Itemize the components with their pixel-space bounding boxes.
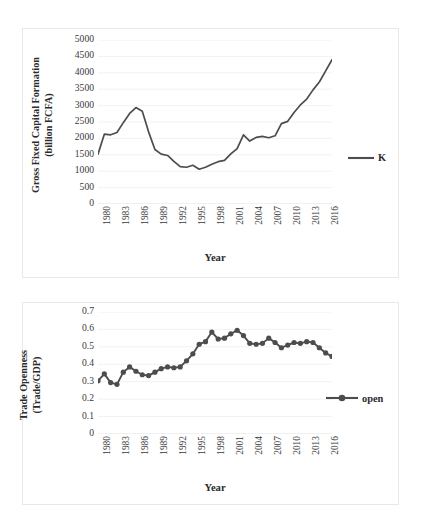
chart-2-data-point [304,339,309,344]
chart-2-data-point [222,336,227,341]
chart-1-y-tick: 1000 [75,164,94,175]
chart-2-y-axis-title: Trade Openness (Trade/GDP) [17,320,43,450]
chart-2-data-point [272,340,277,345]
chart-2-data-point [178,364,183,369]
chart-1-y-tick: 0 [89,197,94,208]
chart-2-x-tick: 1986 [140,436,150,455]
chart-1-x-tick: 1995 [197,206,207,225]
chart-1-y-tick: 2500 [75,115,94,126]
chart-2-y-axis-title-line2: (Trade/GDP) [30,320,43,450]
chart-1-y-tick: 1500 [75,147,94,158]
chart-2-x-tick: 1983 [121,436,131,455]
chart-2-y-axis-title-line1: Trade Openness [18,350,29,420]
chart-2-data-point [247,341,252,346]
chart-1-x-tick: 1983 [121,206,131,225]
chart-2-x-tick: 2001 [235,436,245,455]
chart-2-data-point [184,358,189,363]
chart-2-x-tick-labels: 1980198319861989199219951998200120042007… [98,436,332,480]
chart-2-y-tick: 0.2 [82,392,94,403]
chart-2-y-tick: 0.4 [82,357,94,368]
chart-2-y-tick: 0.7 [82,305,94,316]
chart-2-legend-line-marker-icon [325,392,359,404]
chart-2-svg [98,312,332,434]
chart-1-x-tick: 2016 [330,206,340,225]
chart-2-data-point [102,371,107,376]
chart-2-data-point [216,336,221,341]
chart-2-x-tick: 2010 [292,436,302,455]
chart-1-x-tick: 1980 [102,206,112,225]
chart-2-data-point [190,351,195,356]
chart-1-y-tick-labels: 5000450040003500300025002000150010005000 [50,38,94,204]
chart-1-x-tick: 2004 [254,206,264,225]
chart-1-x-tick: 2007 [273,206,283,225]
chart-1-x-tick: 2013 [311,206,321,225]
chart-2-data-point [285,343,290,348]
chart-2-data-point [146,373,151,378]
chart-2-x-tick: 2016 [330,436,340,455]
chart-2-y-tick: 0.5 [82,339,94,350]
chart-2-x-tick: 1980 [102,436,112,455]
chart-1-x-tick: 2010 [292,206,302,225]
chart-1-legend-line-icon [347,153,375,163]
chart-2-data-point [133,369,138,374]
chart-2-data-point [254,342,259,347]
chart-2-data-point [197,342,202,347]
chart-2-x-tick: 1992 [178,436,188,455]
chart-1-plot-area [98,40,332,204]
chart-2-data-point [260,341,265,346]
chart-1-x-tick: 1989 [159,206,169,225]
chart-2-data-point [121,370,126,375]
chart-2-legend-label: open [362,393,383,404]
chart-2-data-point [165,364,170,369]
chart-2-y-tick: 0 [89,427,94,438]
chart-2-data-point [228,331,233,336]
chart-2-x-tick: 2007 [273,436,283,455]
chart-2-plot-area [98,312,332,434]
chart-1-y-tick: 500 [80,180,94,191]
chart-2-series-line [98,330,332,384]
chart-1-x-tick: 1992 [178,206,188,225]
chart-2-x-tick: 1989 [159,436,169,455]
chart-2-data-point [108,380,113,385]
chart-2-x-tick: 2004 [254,436,264,455]
chart-2-data-point [140,372,145,377]
chart-2-data-point [323,350,328,355]
chart-2-y-tick-labels: 0.70.60.50.40.30.20.10 [50,310,94,434]
chart-1-y-tick: 4000 [75,65,94,76]
chart-1-y-tick: 3500 [75,82,94,93]
chart-2-y-tick: 0.1 [82,409,94,420]
chart-1-y-tick: 3000 [75,98,94,109]
chart-1-x-tick-labels: 1980198319861989199219951998200120042007… [98,206,332,250]
chart-1-y-axis-title-line1: Gross Fixed Capital Formation [30,57,41,193]
chart-2-data-point [235,328,240,333]
chart-1-x-tick: 1998 [216,206,226,225]
chart-2-data-point [266,336,271,341]
chart-1-y-tick: 4500 [75,49,94,60]
chart-1-x-axis-title: Year [98,252,332,263]
chart-2-data-point [291,340,296,345]
chart-2-data-point [317,345,322,350]
chart-1-legend: K [347,152,386,163]
chart-1-series-line [98,60,332,170]
chart-1-x-tick: 2001 [235,206,245,225]
chart-2-x-tick: 1995 [197,436,207,455]
chart-2-data-point [114,382,119,387]
chart-2-x-tick: 2013 [311,436,321,455]
chart-2-data-point [241,333,246,338]
chart-2-y-tick: 0.3 [82,374,94,385]
chart-1-y-tick: 5000 [75,33,94,44]
chart-2-data-point [310,340,315,345]
chart-2-data-point [127,364,132,369]
chart-1-x-tick: 1986 [140,206,150,225]
chart-2-data-point [171,365,176,370]
chart-1-legend-label: K [378,152,386,163]
chart-2-data-point [152,370,157,375]
chart-2-y-tick: 0.6 [82,322,94,333]
chart-2-x-tick: 1998 [216,436,226,455]
chart-2-data-point [279,345,284,350]
chart-1-y-tick: 2000 [75,131,94,142]
chart-2-data-point [203,339,208,344]
figure-page: Gross Fixed Capital Formation (billion F… [0,0,421,524]
chart-2-data-point [159,366,164,371]
chart-1-svg [98,40,332,204]
